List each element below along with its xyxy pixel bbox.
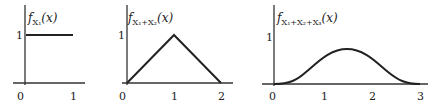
y-tick-1: 1 — [266, 31, 273, 44]
y-tick-1: 1 — [16, 29, 23, 42]
y-tick-1: 1 — [118, 29, 125, 42]
x-tick-2: 2 — [369, 90, 376, 103]
plot-label: fX₁+X₂(x) — [127, 11, 173, 27]
panel-quadratic: fX₁+X₂+X₃(x) 1 0 1 2 3 — [262, 5, 428, 103]
x-tick-1: 1 — [321, 90, 328, 103]
density-curve — [274, 49, 420, 84]
panel-triangular: fX₁+X₂(x) 1 0 1 2 — [118, 5, 233, 103]
plot-label: fX₁+X₂+X₃(x) — [276, 11, 338, 27]
panel-uniform: fX₁(x) 1 0 1 — [13, 5, 85, 103]
x-tick-0: 0 — [269, 90, 276, 103]
density-curve — [127, 35, 221, 83]
x-tick-1: 1 — [70, 90, 77, 103]
x-tick-0: 0 — [119, 90, 126, 103]
plot-label: fX₁(x) — [27, 11, 58, 27]
density-figure: fX₁(x) 1 0 1 fX₁+X₂(x) 1 0 1 2 fX₁+X₂+X₃… — [0, 0, 446, 106]
x-tick-0: 0 — [17, 90, 24, 103]
x-tick-1: 1 — [171, 90, 178, 103]
x-tick-3: 3 — [417, 90, 424, 103]
x-tick-2: 2 — [218, 90, 225, 103]
